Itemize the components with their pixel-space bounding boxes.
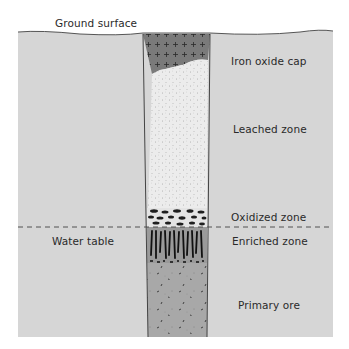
- label-primary-ore: Primary ore: [238, 299, 300, 311]
- label-water-table: Water table: [52, 235, 114, 247]
- label-enriched-zone: Enriched zone: [232, 235, 308, 247]
- label-ground-surface: Ground surface: [55, 17, 137, 29]
- label-leached-zone: Leached zone: [233, 123, 307, 135]
- supergene-enrichment-diagram: [0, 0, 349, 349]
- label-oxidized-zone: Oxidized zone: [231, 211, 306, 223]
- label-iron-oxide-cap: Iron oxide cap: [231, 55, 307, 67]
